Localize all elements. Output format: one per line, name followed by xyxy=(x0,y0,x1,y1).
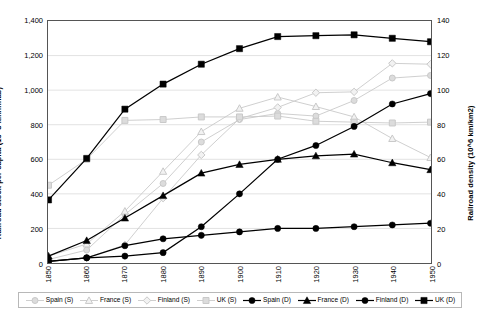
legend-item-spain-d[interactable]: Spain (D) xyxy=(242,296,291,305)
legend-label-spain-s: Spain (S) xyxy=(46,297,74,304)
legend-label-uk-s: UK (S) xyxy=(217,297,237,304)
x-axis-tick-label: 1890 xyxy=(197,266,206,283)
series-france-d xyxy=(48,150,431,259)
y-axis-right-ticks: 020406080100120140 xyxy=(437,20,467,264)
y-axis-right-tick-label: 40 xyxy=(437,190,445,199)
y-axis-left-tick-label: 800 xyxy=(30,120,43,129)
legend-swatch-finland-d xyxy=(355,296,375,305)
legend-swatch-uk-s xyxy=(196,296,216,305)
x-axis-tick-label: 1880 xyxy=(158,266,167,283)
x-axis-tick-label: 1850 xyxy=(43,266,52,283)
y-axis-right-tick-label: 140 xyxy=(437,16,450,25)
y-axis-left-tick-label: 200 xyxy=(30,225,43,234)
legend-item-uk-s[interactable]: UK (S) xyxy=(196,296,237,305)
y-axis-right-tick-label: 0 xyxy=(437,260,441,269)
y-axis-right-tick-label: 20 xyxy=(437,225,445,234)
legend-swatch-france-d xyxy=(297,296,317,305)
chart-legend: Spain (S)France (S)Finland (S)UK (S)Spai… xyxy=(18,292,462,308)
y-axis-right-tick-label: 120 xyxy=(437,50,450,59)
legend-item-uk-d[interactable]: UK (D) xyxy=(414,296,455,305)
x-axis-tick-label: 1940 xyxy=(389,266,398,283)
x-axis-tick-label: 1900 xyxy=(235,266,244,283)
x-axis-tick-label: 1860 xyxy=(81,266,90,283)
y-axis-left-tick-label: 1,400 xyxy=(24,16,43,25)
x-axis-tick-label: 1870 xyxy=(120,266,129,283)
railroad-line-chart: Railroad stock per capita (10^3 km/inhab… xyxy=(0,0,480,326)
legend-swatch-finland-s xyxy=(137,296,157,305)
series-layer xyxy=(48,21,431,263)
legend-item-france-d[interactable]: France (D) xyxy=(297,296,350,305)
y-axis-left-tick-label: 0 xyxy=(39,260,43,269)
x-axis-tick-label: 1950 xyxy=(427,266,436,283)
legend-label-finland-d: Finland (D) xyxy=(376,297,409,304)
series-uk-s xyxy=(48,113,431,188)
legend-swatch-uk-d xyxy=(414,296,434,305)
y-axis-right-tick-label: 60 xyxy=(437,155,445,164)
plot-area xyxy=(47,20,432,264)
legend-swatch-spain-s xyxy=(25,296,45,305)
y-axis-right-title: Railroad density (10^6 km/km2) xyxy=(466,63,475,263)
legend-label-france-s: France (S) xyxy=(100,297,131,304)
legend-item-finland-d[interactable]: Finland (D) xyxy=(355,296,409,305)
x-axis-tick-label: 1910 xyxy=(273,266,282,283)
legend-label-spain-d: Spain (D) xyxy=(263,297,291,304)
y-axis-left-tick-label: 1,000 xyxy=(24,85,43,94)
y-axis-left-ticks: 02004006008001,0001,2001,400 xyxy=(0,20,43,264)
legend-item-finland-s[interactable]: Finland (S) xyxy=(137,296,190,305)
y-axis-right-tick-label: 80 xyxy=(437,120,445,129)
legend-item-france-s[interactable]: France (S) xyxy=(79,296,131,305)
legend-swatch-spain-d xyxy=(242,296,262,305)
y-axis-left-tick-label: 600 xyxy=(30,155,43,164)
legend-item-spain-s[interactable]: Spain (S) xyxy=(25,296,74,305)
legend-label-france-d: France (D) xyxy=(318,297,350,304)
x-axis-tick-label: 1920 xyxy=(312,266,321,283)
legend-label-uk-d: UK (D) xyxy=(435,297,455,304)
legend-label-finland-s: Finland (S) xyxy=(158,297,190,304)
y-axis-left-tick-label: 1,200 xyxy=(24,50,43,59)
y-axis-left-tick-label: 400 xyxy=(30,190,43,199)
legend-swatch-france-s xyxy=(79,296,99,305)
y-axis-right-tick-label: 100 xyxy=(437,85,450,94)
x-axis-ticks: 1850186018701880189019001910192019301940… xyxy=(47,266,432,292)
x-axis-tick-label: 1930 xyxy=(350,266,359,283)
